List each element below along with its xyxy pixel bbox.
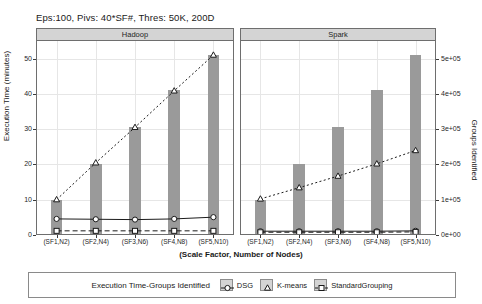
- y-tick-label-right: 0e+00: [441, 231, 461, 238]
- chart-root: Eps:100, Pivs: 40*SF#, Thres: 50K, 200D …: [0, 0, 482, 304]
- y-tick-mark-right: [436, 164, 439, 165]
- x-tick-mark: [174, 235, 175, 238]
- y-tick-mark-right: [436, 129, 439, 130]
- legend-marker-circle-icon: [220, 279, 233, 291]
- legend-item[interactable]: DSG: [220, 279, 253, 291]
- x-tick-mark: [57, 235, 58, 238]
- y-axis-left-label: Execution Time (minutes): [2, 51, 11, 141]
- panel-strip-spark: Spark: [240, 28, 436, 41]
- y-tick-label-right: 3e+05: [441, 125, 461, 132]
- x-tick-mark: [96, 235, 97, 238]
- x-tick-label: (SF1,N2): [37, 238, 77, 245]
- x-tick-label: (SF3,N6): [115, 238, 155, 245]
- x-tick-mark: [416, 235, 417, 238]
- panel-title-hadoop: Hadoop: [122, 30, 148, 39]
- y-tick-label-left: 20: [12, 160, 32, 167]
- y-axis-right-label: Groups Identified: [470, 120, 479, 181]
- y-tick-label-right: 5e+05: [441, 55, 461, 62]
- y-tick-mark-right: [436, 59, 439, 60]
- legend-item[interactable]: StandardGrouping: [314, 279, 392, 291]
- x-tick-label: (SF2,N4): [279, 238, 319, 245]
- y-tick-mark-right: [436, 235, 439, 236]
- x-tick-mark: [299, 235, 300, 238]
- chart-title: Eps:100, Pivs: 40*SF#, Thres: 50K, 200D: [36, 12, 215, 23]
- x-tick-label: (SF3,N6): [318, 238, 358, 245]
- y-tick-label-right: 4e+05: [441, 90, 461, 97]
- x-tick-label: (SF5,N10): [193, 238, 233, 245]
- x-tick-label: (SF5,N10): [396, 238, 436, 245]
- panel-spark: Spark: [240, 28, 436, 235]
- y-tick-mark-right: [436, 94, 439, 95]
- x-tick-label: (SF4,N8): [154, 238, 194, 245]
- x-tick-mark: [213, 235, 214, 238]
- legend-title: Execution Time-Groups Identified: [92, 281, 210, 290]
- panel-strip-hadoop: Hadoop: [36, 28, 234, 41]
- plot-area-spark: [240, 41, 436, 235]
- x-tick-label: (SF4,N8): [357, 238, 397, 245]
- y-tick-label-left: 50: [12, 55, 32, 62]
- y-tick-label-left: 40: [12, 90, 32, 97]
- legend-label: K-means: [277, 281, 307, 290]
- x-tick-mark: [135, 235, 136, 238]
- legend-item[interactable]: K-means: [260, 279, 307, 291]
- y-tick-mark-right: [436, 200, 439, 201]
- x-tick-label: (SF2,N4): [76, 238, 116, 245]
- panel-hadoop: Hadoop: [36, 28, 234, 235]
- x-tick-mark: [377, 235, 378, 238]
- y-tick-label-right: 1e+05: [441, 196, 461, 203]
- x-tick-mark: [260, 235, 261, 238]
- chart-legend: Execution Time-Groups Identified DSGK-me…: [28, 272, 456, 298]
- y-tick-mark-left: [33, 235, 36, 236]
- y-tick-label-left: 0: [12, 231, 32, 238]
- legend-marker-triangle-icon: [260, 279, 273, 291]
- plot-area-hadoop: [36, 41, 234, 235]
- legend-marker-square-icon: [314, 279, 327, 291]
- x-tick-mark: [338, 235, 339, 238]
- panel-title-spark: Spark: [328, 30, 348, 39]
- y-tick-label-right: 2e+05: [441, 160, 461, 167]
- series-layer: [37, 41, 233, 234]
- series-layer: [241, 41, 435, 234]
- x-tick-label: (SF1,N2): [240, 238, 280, 245]
- y-tick-label-left: 10: [12, 196, 32, 203]
- y-tick-label-left: 30: [12, 125, 32, 132]
- x-axis-label: (Scale Factor, Number of Nodes): [0, 250, 482, 259]
- legend-label: DSG: [237, 281, 253, 290]
- legend-label: StandardGrouping: [331, 281, 392, 290]
